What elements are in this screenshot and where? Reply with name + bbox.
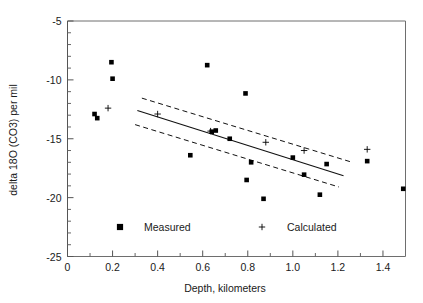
measured-point	[365, 159, 370, 164]
measured-point	[209, 129, 214, 134]
measured-point	[109, 60, 114, 65]
x-tick-label: 1.2	[331, 261, 346, 273]
measured-point	[227, 136, 232, 141]
upper-confidence-band	[142, 98, 350, 162]
measured-point	[205, 63, 210, 68]
measured-point	[302, 172, 307, 177]
y-tick-label: -5	[52, 15, 61, 27]
y-axis-label: delta 18O (CO3) per mil	[7, 84, 19, 195]
confidence-bands	[135, 98, 350, 187]
measured-point	[261, 197, 266, 202]
measured-point	[249, 160, 254, 165]
regression-line	[137, 110, 343, 175]
x-tick-label: 0.8	[240, 261, 255, 273]
y-axis-ticks: -5-10-15-20-25	[46, 15, 73, 263]
measured-point	[92, 112, 97, 117]
y-tick-label: -25	[46, 251, 61, 263]
y-tick-label: -15	[46, 133, 61, 145]
calculated-point	[105, 105, 111, 111]
measured-point	[188, 153, 193, 158]
y-tick-label: -10	[46, 74, 61, 86]
legend-marker-calculated	[259, 224, 265, 230]
figure-container: 00.20.40.60.81.01.21.4 -5-10-15-20-25 Me…	[0, 0, 423, 303]
x-tick-label: 1.4	[376, 261, 391, 273]
measured-point	[401, 186, 406, 191]
x-tick-label: 0.4	[150, 261, 165, 273]
x-tick-label: 0	[65, 261, 71, 273]
legend-label-measured: Measured	[144, 221, 191, 233]
legend: MeasuredCalculated	[117, 221, 337, 233]
measured-point	[110, 76, 115, 81]
axes-group	[68, 21, 406, 257]
y-tick-label: -20	[46, 192, 61, 204]
calculated-point	[263, 139, 269, 145]
measured-point	[244, 178, 249, 183]
x-tick-label: 1.0	[286, 261, 301, 273]
measured-point	[324, 162, 329, 167]
legend-marker-measured	[117, 224, 123, 230]
calculated-point	[364, 146, 370, 152]
regression-line-segment	[137, 110, 343, 175]
lower-confidence-band	[135, 125, 339, 187]
measured-point	[243, 91, 248, 96]
x-axis-label: Depth, kilometers	[184, 282, 266, 294]
x-tick-label: 0.2	[105, 261, 120, 273]
x-axis-ticks: 00.20.40.60.81.01.21.4	[65, 251, 391, 273]
measured-point	[318, 192, 323, 197]
measured-point	[213, 128, 218, 133]
legend-label-calculated: Calculated	[287, 221, 337, 233]
x-tick-label: 0.6	[195, 261, 210, 273]
measured-point	[95, 116, 100, 121]
scatter-plot: 00.20.40.60.81.01.21.4 -5-10-15-20-25 Me…	[0, 0, 423, 303]
measured-point	[291, 155, 296, 160]
